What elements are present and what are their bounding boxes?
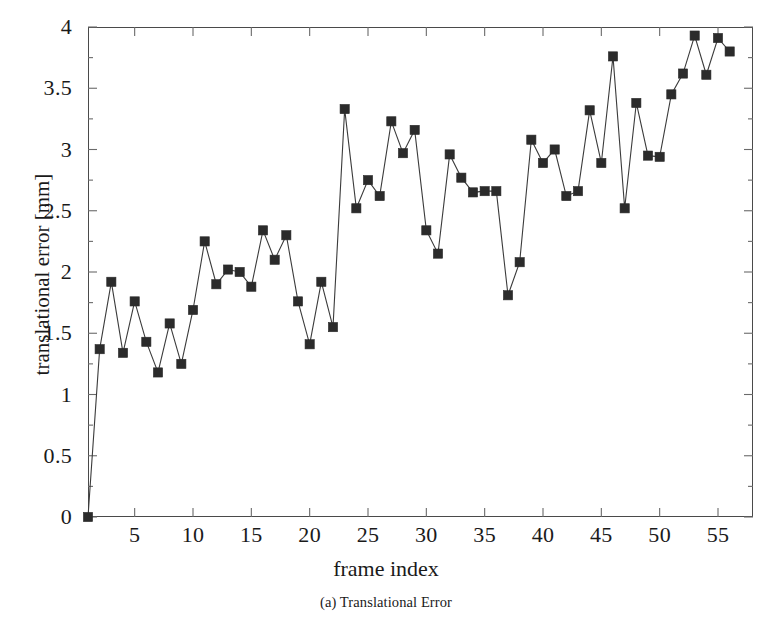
figure-caption: (a) Translational Error — [0, 594, 772, 611]
x-axis-tick-label: 50 — [630, 524, 690, 546]
x-axis-tick-label: 10 — [163, 524, 223, 546]
x-axis-tick-label: 30 — [396, 524, 456, 546]
x-axis-tick-labels: 510152025303540455055 — [0, 0, 772, 622]
x-axis-tick-label: 45 — [571, 524, 631, 546]
x-axis-tick-label: 25 — [338, 524, 398, 546]
x-axis-tick-label: 5 — [105, 524, 165, 546]
x-axis-title: frame index — [0, 556, 772, 582]
x-axis-tick-label: 35 — [455, 524, 515, 546]
x-axis-tick-label: 20 — [280, 524, 340, 546]
x-axis-tick-label: 15 — [221, 524, 281, 546]
x-axis-tick-label: 40 — [513, 524, 573, 546]
x-axis-tick-label: 55 — [688, 524, 748, 546]
figure-translational-error: 00.511.522.533.54 translational error [m… — [0, 0, 772, 622]
